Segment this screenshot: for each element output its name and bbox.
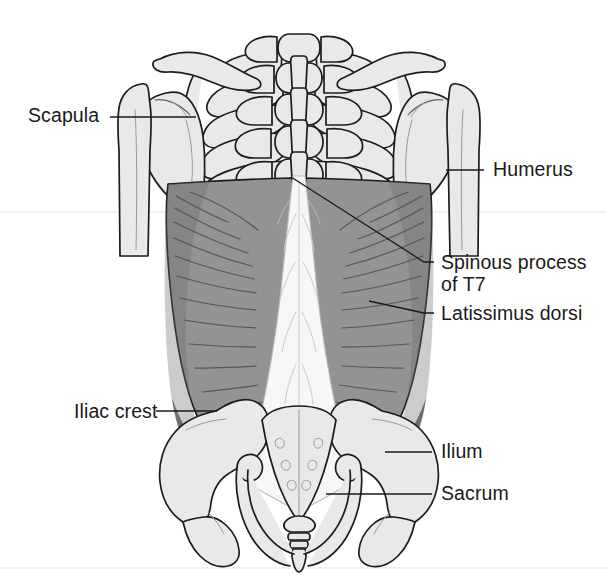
label-ilium: Ilium xyxy=(441,440,483,462)
label-scapula: Scapula xyxy=(28,104,99,126)
humerus-left xyxy=(118,84,151,256)
pelvis xyxy=(160,400,439,572)
anatomy-illustration: Scapula Humerus Spinous process of T7 La… xyxy=(0,0,606,588)
anatomy-figure: Scapula Humerus Spinous process of T7 La… xyxy=(0,0,606,588)
label-iliac-crest: Iliac crest xyxy=(74,400,158,422)
vertebrae xyxy=(235,34,362,190)
label-spinous-process-t7-line2: of T7 xyxy=(441,273,486,295)
label-sacrum: Sacrum xyxy=(441,482,509,504)
label-spinous-process-t7-line1: Spinous process xyxy=(441,251,587,273)
label-humerus: Humerus xyxy=(493,158,573,180)
sacrum-bone xyxy=(262,406,336,522)
label-latissimus-dorsi: Latissimus dorsi xyxy=(441,302,582,324)
